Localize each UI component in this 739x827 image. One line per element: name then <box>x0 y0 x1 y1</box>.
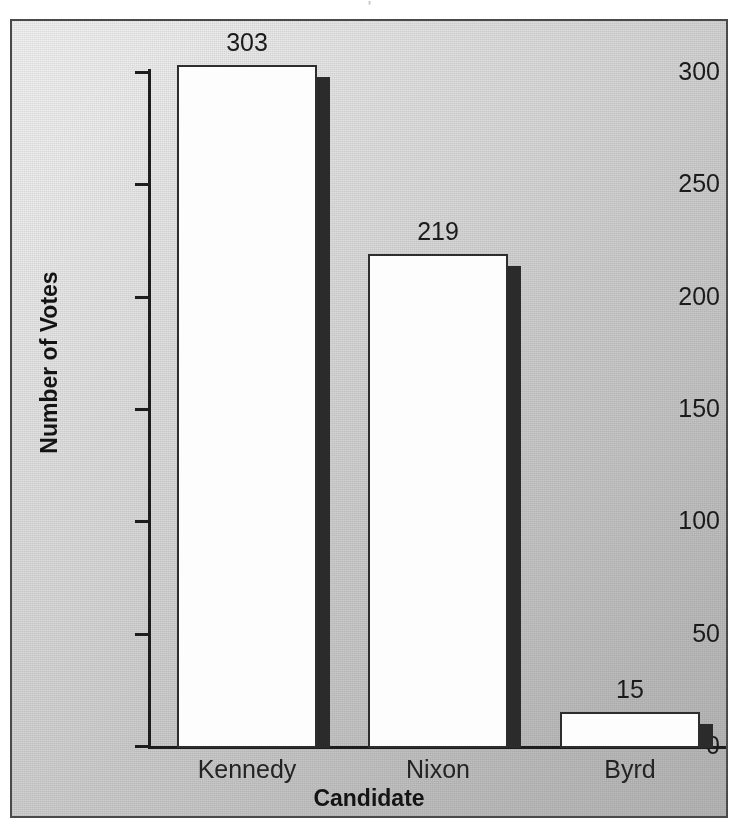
x-axis-label-nixon: Nixon <box>328 757 548 782</box>
y-axis-tick-mark <box>135 71 148 74</box>
bar-value-label: 15 <box>520 677 728 702</box>
cropped-title-remnant: ' <box>0 0 739 12</box>
y-axis-tick-mark <box>135 745 148 748</box>
bar-shadow <box>698 724 713 748</box>
bar-shadow <box>315 77 330 748</box>
y-axis-title: Number of Votes <box>38 213 61 513</box>
y-axis-tick-mark <box>135 183 148 186</box>
y-axis-tick-label: 100 <box>608 508 726 533</box>
y-axis-line <box>148 69 151 748</box>
y-axis-tick-label: 50 <box>608 621 726 646</box>
bar-shadow <box>506 266 521 748</box>
bar-value-label: 303 <box>137 30 357 55</box>
chart-page: ' 050100150200250300 30321915 KennedyNix… <box>0 0 739 827</box>
y-axis-tick-mark <box>135 296 148 299</box>
y-axis-tick-mark <box>135 520 148 523</box>
y-axis-tick-mark <box>135 408 148 411</box>
y-axis-tick-label: 300 <box>608 59 726 84</box>
bar-kennedy[interactable] <box>177 65 317 748</box>
x-axis-label-kennedy: Kennedy <box>137 757 357 782</box>
x-axis-label-byrd: Byrd <box>520 757 728 782</box>
y-axis-tick-label: 250 <box>608 171 726 196</box>
bar-nixon[interactable] <box>368 254 508 748</box>
chart-frame: 050100150200250300 30321915 KennedyNixon… <box>10 19 728 818</box>
y-axis-tick-label: 200 <box>608 284 726 309</box>
bar-value-label: 219 <box>328 219 548 244</box>
y-axis-tick-label: 150 <box>608 396 726 421</box>
y-axis-tick-mark <box>135 633 148 636</box>
x-axis-title: Candidate <box>12 787 726 810</box>
plot-area: 050100150200250300 30321915 KennedyNixon… <box>12 21 726 816</box>
bar-byrd[interactable] <box>560 712 700 748</box>
